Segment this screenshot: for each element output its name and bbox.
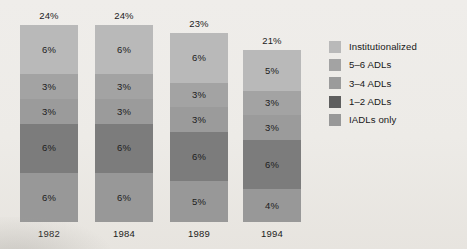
legend-item[interactable]: Institutionalized [329,38,463,56]
x-axis-tick-label: 1982 [20,228,78,239]
bar-total-label: 23% [170,18,228,29]
bar-segment[interactable]: 6% [95,173,153,222]
bar-segment-label: 6% [42,193,56,203]
bar-segment[interactable]: 6% [95,124,153,173]
bar-total-label: 24% [95,10,153,21]
legend-swatch-icon [329,77,341,89]
legend-item-label: Institutionalized [349,42,417,52]
bar-segment[interactable]: 5% [170,181,228,222]
bar-segment[interactable]: 6% [170,132,228,181]
bar-segment[interactable]: 6% [20,173,78,222]
bar-segment[interactable]: 3% [170,83,228,108]
bar-segment-label: 3% [265,98,279,108]
bar-segment[interactable]: 3% [95,74,153,99]
bar-segment-label: 6% [42,143,56,153]
bar-group-1984: 24%6%3%3%6%6%1984 [95,25,153,222]
bar-segment[interactable]: 6% [20,124,78,173]
bar-segment-label: 3% [42,82,56,92]
legend-item-label: 3–4 ADLs [349,79,391,89]
stacked-bar-plot-area: 24%6%3%3%6%6%198224%6%3%3%6%6%198423%6%3… [0,0,320,249]
legend-item[interactable]: IADLs only [329,111,463,129]
bar-segment-label: 5% [192,197,206,207]
chart-legend: Institutionalized5–6 ADLs3–4 ADLs1–2 ADL… [329,38,463,129]
bar-segment[interactable]: 3% [95,99,153,124]
bar-group-1989: 23%6%3%3%6%5%1989 [170,33,228,222]
x-axis-tick-label: 1994 [243,228,301,239]
legend-swatch-icon [329,59,341,71]
bar-segment[interactable]: 6% [20,25,78,74]
bar-segment[interactable]: 4% [243,189,301,222]
bar-segment-label: 3% [265,123,279,133]
bar-segment-label: 3% [192,90,206,100]
bar-segment-label: 5% [265,66,279,76]
bar-segment-label: 6% [117,143,131,153]
bar-segment[interactable]: 3% [170,107,228,132]
bar-segment[interactable]: 3% [20,74,78,99]
bar-segment-label: 6% [265,160,279,170]
bar-segment[interactable]: 6% [243,140,301,189]
bar-segment-label: 3% [42,107,56,117]
legend-swatch-icon [329,41,341,53]
bar-segment-label: 6% [192,152,206,162]
bar-segment[interactable]: 3% [243,115,301,140]
bar-group-1982: 24%6%3%3%6%6%1982 [20,25,78,222]
legend-item[interactable]: 3–4 ADLs [329,74,463,92]
bar-segment-label: 3% [192,115,206,125]
bar-segment-label: 3% [117,107,131,117]
stacked-bar[interactable]: 5%3%3%6%4% [243,50,301,222]
bar-total-label: 24% [20,10,78,21]
x-axis-tick-label: 1989 [170,228,228,239]
bar-segment[interactable]: 6% [170,33,228,82]
bar-segment[interactable]: 3% [243,91,301,116]
legend-item[interactable]: 1–2 ADLs [329,93,463,111]
bar-segment[interactable]: 3% [20,99,78,124]
bar-total-label: 21% [243,35,301,46]
bar-segment-label: 6% [192,53,206,63]
bar-segment[interactable]: 6% [95,25,153,74]
legend-swatch-icon [329,96,341,108]
x-axis-tick-label: 1984 [95,228,153,239]
bar-segment[interactable]: 5% [243,50,301,91]
stacked-bar[interactable]: 6%3%3%6%6% [95,25,153,222]
legend-swatch-icon [329,114,341,126]
stacked-bar[interactable]: 6%3%3%6%5% [170,33,228,222]
bar-segment-label: 3% [117,82,131,92]
bar-segment-label: 6% [117,193,131,203]
legend-item[interactable]: 5–6 ADLs [329,56,463,74]
bar-group-1994: 21%5%3%3%6%4%1994 [243,50,301,222]
bar-segment-label: 6% [117,45,131,55]
legend-item-label: 5–6 ADLs [349,60,391,70]
legend-item-label: IADLs only [349,115,396,125]
legend-item-label: 1–2 ADLs [349,97,391,107]
stacked-bar[interactable]: 6%3%3%6%6% [20,25,78,222]
bar-segment-label: 4% [265,201,279,211]
chart-canvas: 24%6%3%3%6%6%198224%6%3%3%6%6%198423%6%3… [0,0,467,249]
bar-segment-label: 6% [42,45,56,55]
